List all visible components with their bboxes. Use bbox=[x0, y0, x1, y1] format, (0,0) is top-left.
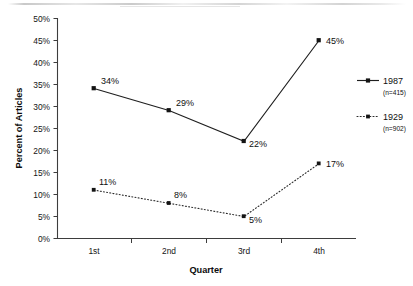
series-1929-marker-4th bbox=[317, 162, 321, 166]
chart-figure: 50% 45% 40% 35% 30% 25% 20% 15% 10% 5% 0… bbox=[0, 0, 413, 286]
series-1929-marker-2nd bbox=[167, 201, 171, 205]
y-tick-label-0: 0% bbox=[38, 234, 51, 244]
series-1987-label-2nd: 29% bbox=[176, 98, 194, 108]
y-tick-label-25: 25% bbox=[33, 124, 50, 134]
series-1929-label-4th: 17% bbox=[326, 159, 344, 169]
series-1987-line bbox=[94, 41, 319, 142]
y-tick-label-20: 20% bbox=[33, 146, 50, 156]
y-tick-label-15: 15% bbox=[33, 168, 50, 178]
series-1929-label-3rd: 5% bbox=[249, 215, 262, 225]
y-tick-label-10: 10% bbox=[33, 190, 50, 200]
series-1987-label-1st: 34% bbox=[101, 76, 119, 86]
series-1929-marker-1st bbox=[92, 188, 96, 192]
legend-entry-1929[interactable]: 1929 (n=902) bbox=[357, 112, 406, 133]
x-tick-label-1st: 1st bbox=[88, 246, 100, 256]
series-1929-marker-3rd bbox=[242, 214, 246, 218]
x-tick-label-4th: 4th bbox=[313, 246, 325, 256]
legend-sublabel-1929: (n=902) bbox=[383, 125, 406, 133]
x-tick-label-3rd: 3rd bbox=[238, 246, 250, 256]
legend-swatch-marker-1929 bbox=[366, 115, 370, 119]
legend-label-1929: 1929 bbox=[383, 112, 403, 122]
x-axis-ticks bbox=[132, 239, 282, 244]
legend-entry-1987[interactable]: 1987 (n=415) bbox=[357, 76, 406, 97]
series-1987-marker-1st bbox=[92, 86, 96, 90]
y-axis-title: Percent of Articles bbox=[14, 88, 24, 169]
legend-label-1987: 1987 bbox=[383, 76, 403, 86]
series-1929-label-2nd: 8% bbox=[174, 190, 187, 200]
y-tick-label-45: 45% bbox=[33, 36, 50, 46]
chart-legend: 1987 (n=415) 1929 (n=902) bbox=[357, 76, 406, 133]
y-tick-label-35: 35% bbox=[33, 80, 50, 90]
y-axis-ticks bbox=[54, 19, 58, 239]
y-tick-label-40: 40% bbox=[33, 58, 50, 68]
series-1987-marker-4th bbox=[317, 38, 321, 42]
legend-swatch-marker-1987 bbox=[366, 78, 370, 82]
y-tick-label-30: 30% bbox=[33, 102, 50, 112]
series-1929-line bbox=[94, 164, 319, 217]
series-1987-label-4th: 45% bbox=[326, 36, 344, 46]
line-chart-canvas: 50% 45% 40% 35% 30% 25% 20% 15% 10% 5% 0… bbox=[0, 0, 413, 286]
y-tick-label-5: 5% bbox=[38, 212, 51, 222]
series-1987-label-3rd: 22% bbox=[249, 139, 267, 149]
series-1929-label-1st: 11% bbox=[99, 177, 116, 187]
x-axis-title: Quarter bbox=[189, 265, 223, 275]
x-tick-label-2nd: 2nd bbox=[162, 246, 176, 256]
series-1987-marker-3rd bbox=[242, 139, 246, 143]
series-1987-marker-2nd bbox=[167, 108, 171, 112]
legend-sublabel-1987: (n=415) bbox=[383, 89, 406, 97]
y-tick-label-50: 50% bbox=[33, 14, 50, 24]
series-1987 bbox=[92, 38, 321, 143]
series-1929 bbox=[92, 162, 321, 219]
